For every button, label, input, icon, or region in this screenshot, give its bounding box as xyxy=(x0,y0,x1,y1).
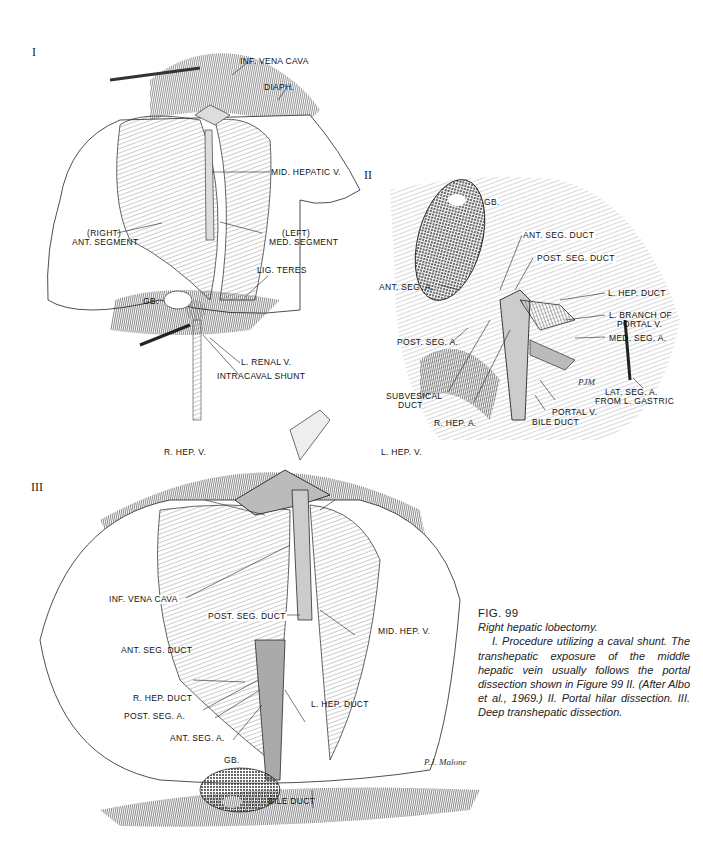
label-inf-vena-cava-3: INF. VENA CAVA xyxy=(108,595,179,604)
label-gb-3: GB. xyxy=(224,756,240,765)
label-ant-seg-duct-2: ANT. SEG. DUCT xyxy=(522,231,595,240)
label-gb-1: GB. xyxy=(143,297,159,306)
figure-number: FIG. 99 xyxy=(478,606,690,620)
label-r-hep-duct: R. HEP. DUCT xyxy=(133,694,192,703)
label-bile-duct-2: BILE DUCT xyxy=(532,418,579,427)
label-l-branch-portal-2: PORTAL V. xyxy=(617,320,662,329)
label-lat-seg-a-2: FROM L. GASTRIC xyxy=(595,397,674,406)
label-ant-seg-duct-3: ANT. SEG. DUCT xyxy=(121,646,192,655)
label-r-hep-a: R. HEP. A. xyxy=(434,419,477,428)
label-ant-seg-a-2: ANT. SEG. A. xyxy=(379,283,434,292)
panel-2-number: II xyxy=(364,168,372,183)
label-diaph: DIAPH. xyxy=(264,83,294,92)
label-r-hep-v: R. HEP. V. xyxy=(164,448,206,457)
label-l-hep-v: L. HEP. V. xyxy=(381,448,422,457)
label-subvesical-duct-2: DUCT xyxy=(398,401,423,410)
figure-title: Right hepatic lobectomy. xyxy=(478,620,690,634)
panel-3-number: III xyxy=(31,480,43,495)
panel-1-number: I xyxy=(32,45,36,60)
label-left-med-seg-2: MED. SEGMENT xyxy=(269,238,338,247)
label-portal-v: PORTAL V. xyxy=(552,408,597,417)
label-intracaval-shunt: INTRACAVAL SHUNT xyxy=(217,372,305,381)
label-post-seg-duct-3: POST. SEG. DUCT xyxy=(207,612,287,621)
artist-signature-2: PJM xyxy=(578,377,595,387)
label-l-hep-duct-2: L. HEP. DUCT xyxy=(608,289,666,298)
label-inf-vena-cava: INF. VENA CAVA xyxy=(240,57,309,66)
label-post-seg-a-3: POST. SEG. A. xyxy=(124,712,185,721)
label-gb-2: GB. xyxy=(484,198,500,207)
figure-caption: FIG. 99 Right hepatic lobectomy. I. Proc… xyxy=(478,606,690,720)
label-post-seg-duct-2: POST. SEG. DUCT xyxy=(536,254,616,263)
figure-description: I. Procedure utilizing a caval shunt. Th… xyxy=(478,634,690,719)
label-mid-hepatic-v: MID. HEPATIC V. xyxy=(271,168,341,177)
artist-signature-3: P.J. Malone xyxy=(424,757,467,767)
label-bile-duct-3: BILE DUCT xyxy=(268,797,315,806)
label-l-hep-duct-3: L. HEP. DUCT xyxy=(311,700,369,709)
label-med-seg-a: MED. SEG. A. xyxy=(609,334,666,343)
label-mid-hep-v: MID. HEP. V. xyxy=(378,627,430,636)
label-right-ant-seg-2: ANT. SEGMENT xyxy=(72,238,138,247)
label-post-seg-a-2: POST. SEG. A. xyxy=(397,338,458,347)
label-lig-teres: LIG. TERES xyxy=(257,266,307,275)
label-ant-seg-a-3: ANT. SEG. A. xyxy=(170,734,225,743)
label-l-renal-v: L. RENAL V. xyxy=(241,358,291,367)
